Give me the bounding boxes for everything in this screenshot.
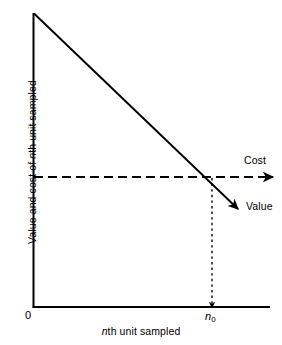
series-label-cost: Cost: [244, 155, 266, 166]
chart-figure: Cost Value 0 n0 nth unit sampled Value a…: [0, 0, 282, 345]
n0-subscript: 0: [211, 315, 215, 324]
y-axis-title: Value and cost of nth unit sampled: [27, 80, 38, 244]
series-label-value: Value: [246, 201, 273, 212]
y-axis-title-container: Value and cost of nth unit sampled: [22, 57, 36, 267]
y-axis-title-pre: Value and cost of: [26, 159, 38, 244]
y-axis-title-symbol: n: [26, 153, 38, 159]
y-axis-title-post: th unit sampled: [26, 80, 38, 153]
x-axis-title-text: th unit sampled: [108, 325, 181, 337]
series-line-value: [34, 14, 238, 210]
x-axis-title: nth unit sampled: [0, 326, 282, 337]
axis-origin-label: 0: [25, 310, 31, 322]
x-axis-tick-label-n0: n0: [205, 311, 216, 324]
chart-plot-area: [0, 0, 282, 345]
